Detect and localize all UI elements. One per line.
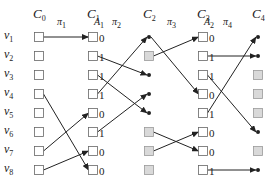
node-c1-row6-box [89,128,98,137]
row-label-v7: v7 [4,142,13,157]
node-c1-row8-box [89,166,98,175]
node-c4-row2-dot [256,54,260,58]
a1-bit-row8: 0 [99,165,105,177]
node-c0-row4-box [35,90,44,99]
a2-bit-row3: 1 [209,70,215,82]
row-label-v5: v5 [4,104,13,119]
node-c3-row6-box [199,128,208,137]
a2-bit-row6: 0 [209,127,215,139]
node-c0-row1-box [35,33,44,42]
a2-bit-row8: 1 [209,165,215,177]
node-c3-row1-box [199,33,208,42]
node-c2-row1-dot [147,35,151,39]
node-c3-row4-box [199,90,208,99]
node-c3-row3-box [199,71,208,80]
node-c3-row8-box [199,166,208,175]
row-label-v6: v6 [4,123,13,138]
node-c1-row2-box [89,52,98,61]
node-c2-row3-dot [147,73,151,77]
a1-bit-row3: 1 [99,70,105,82]
permutation-label-pi3: π3 [167,16,176,27]
node-c1-row1-box [89,33,98,42]
node-c4-row3-gray [254,71,263,80]
permutation-network-diagram: C0C1C2C3C4A1A2π1π2π3π4v1v2v3v4v5v6v7v801… [0,0,278,183]
row-label-v3: v3 [4,66,13,81]
node-c0-row2-box [35,52,44,61]
a1-bit-row5: 0 [99,108,105,120]
node-c2-row6-gray [145,128,154,137]
node-c1-row4-box [89,90,98,99]
edge-pi3-1-to-4 [151,37,199,94]
node-c4-row4-gray [254,90,263,99]
a1-bit-row7: 0 [99,146,105,158]
annotation-a1: A1 [94,16,104,27]
node-c3-row5-box [199,109,208,118]
node-c0-row6-box [35,128,44,137]
node-c3-row2-box [199,52,208,61]
permutation-label-pi4: π4 [223,16,232,27]
a2-bit-row5: 1 [209,108,215,120]
permutation-label-pi2: π2 [112,16,121,27]
node-c3-row7-box [199,147,208,156]
row-label-v1: v1 [4,28,13,43]
edge-pi1-8-to-7 [44,151,89,170]
a2-bit-row7: 0 [209,146,215,158]
annotation-a2: A2 [204,16,214,27]
node-c1-row7-box [89,147,98,156]
permutation-label-pi1: π1 [57,16,66,27]
node-c2-row4-dot [147,92,151,96]
edge-pi4-3-to-6 [208,75,257,132]
node-c4-row8-dot [256,168,260,172]
node-c4-row5-gray [254,109,263,118]
a2-bit-row2: 1 [209,51,215,63]
node-c4-row1-dot [256,35,260,39]
edge-pi3-2-to-1 [154,37,199,56]
node-c2-row2-gray [145,52,154,61]
node-c4-row6-dot [256,130,260,134]
row-label-v4: v4 [4,85,13,100]
row-label-v8: v8 [4,161,13,176]
node-c0-row7-box [35,147,44,156]
node-c2-row7-gray [145,147,154,156]
node-c0-row5-box [35,109,44,118]
a1-bit-row4: 1 [99,89,105,101]
edge-pi4-5-to-1 [208,37,257,113]
a1-bit-row2: 1 [99,51,105,63]
node-c0-row3-box [35,71,44,80]
column-header-c4: C4 [252,6,265,22]
a1-bit-row1: 0 [99,32,105,44]
column-header-c2: C2 [143,6,156,22]
column-header-c0: C0 [33,6,46,22]
node-c1-row3-box [89,71,98,80]
node-c2-row8-gray [145,166,154,175]
node-c0-row8-box [35,166,44,175]
edge-pi1-7-to-5 [44,113,89,151]
node-c4-row7-gray [254,147,263,156]
diagram-canvas [0,0,278,183]
a1-bit-row6: 1 [99,127,105,139]
node-c2-row5-dot [147,111,151,115]
edge-pi2-4-to-1 [98,37,148,94]
node-c1-row5-box [89,109,98,118]
a2-bit-row1: 0 [209,32,215,44]
row-label-v2: v2 [4,47,13,62]
a2-bit-row4: 0 [209,89,215,101]
